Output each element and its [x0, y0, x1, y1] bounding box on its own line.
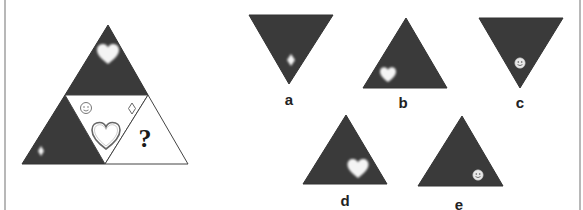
- option-d-label[interactable]: d: [340, 192, 349, 209]
- left-border: [4, 0, 6, 210]
- option-d-triangle[interactable]: [303, 115, 387, 184]
- main-figure: ?: [22, 25, 188, 164]
- puzzle-canvas: ? a b c d: [0, 0, 583, 210]
- smiley-icon: [473, 170, 483, 180]
- smiley-icon: [515, 58, 525, 68]
- right-border: [579, 0, 581, 210]
- option-e[interactable]: e: [418, 116, 503, 210]
- option-e-label[interactable]: e: [455, 196, 463, 210]
- option-c[interactable]: c: [479, 18, 563, 111]
- option-a-triangle[interactable]: [249, 15, 333, 84]
- option-b[interactable]: b: [363, 18, 447, 111]
- puzzle-stage: ? a b c d: [0, 0, 583, 210]
- option-a[interactable]: a: [249, 15, 333, 108]
- option-d[interactable]: d: [303, 115, 387, 209]
- option-a-label[interactable]: a: [285, 91, 294, 108]
- option-e-triangle[interactable]: [418, 116, 503, 186]
- option-c-triangle[interactable]: [479, 18, 563, 88]
- option-b-label[interactable]: b: [398, 94, 407, 111]
- option-c-label[interactable]: c: [516, 94, 524, 111]
- question-mark: ?: [139, 124, 152, 153]
- option-b-triangle[interactable]: [363, 18, 447, 88]
